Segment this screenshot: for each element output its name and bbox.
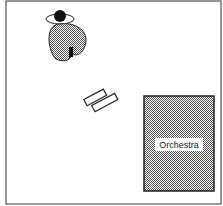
- orchestra-label: Orchestra: [159, 140, 199, 150]
- soloist-stool: [69, 47, 73, 57]
- orchestra-region: Orchestra: [144, 96, 214, 191]
- soloist-figure: [46, 10, 86, 61]
- stage-diagram: Orchestra: [0, 0, 223, 206]
- soloist-instrument: [49, 24, 86, 61]
- music-stand: [84, 85, 118, 113]
- soloist-head: [54, 10, 66, 22]
